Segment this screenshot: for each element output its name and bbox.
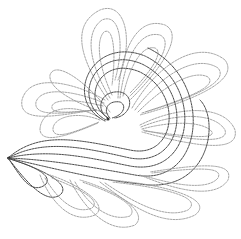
left-feather-loops [22, 70, 110, 138]
upper-feather-loops [82, 8, 236, 145]
central-spiral-swirl [7, 48, 209, 185]
quilting-pattern-art [0, 0, 241, 239]
lower-feather-loops [8, 158, 229, 227]
